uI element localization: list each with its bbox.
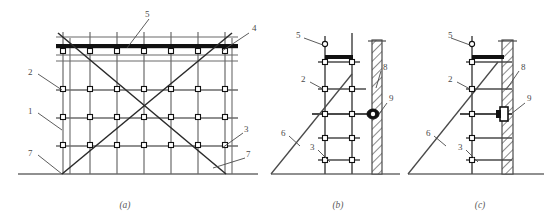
- callout-a-1: 1: [28, 106, 33, 116]
- callout-c-2: 2: [448, 74, 453, 84]
- caption-a: (a): [119, 200, 130, 211]
- top-node-b: [322, 41, 327, 46]
- callout-b-2: 2: [301, 74, 306, 84]
- callout-b-9: 9: [389, 93, 394, 103]
- masonry-wall-b: [372, 40, 382, 174]
- panel-c-wall-tie-detail: 5 2 3 6 8 9 (c): [408, 30, 544, 211]
- callout-labels-a: 2 1 7 5 4 3 7: [28, 9, 257, 159]
- platform-beam-c: [472, 55, 504, 59]
- diagonal-brace-c: [408, 62, 498, 174]
- figure-root: 2 1 7 5 4 3 7 (a): [0, 0, 554, 223]
- callout-b-8: 8: [383, 62, 388, 72]
- callout-a-4: 4: [252, 23, 257, 33]
- ledgers-b: [312, 62, 372, 160]
- scaffolding-figure-svg: 2 1 7 5 4 3 7 (a): [0, 0, 554, 223]
- platform-beam-a: [56, 44, 238, 48]
- caption-b: (b): [332, 200, 343, 211]
- callout-a-3: 3: [244, 124, 249, 134]
- callout-a-5: 5: [145, 9, 150, 19]
- callout-c-3: 3: [458, 142, 463, 152]
- callout-b-6: 6: [281, 128, 286, 138]
- panel-a-scaffold-elevation: 2 1 7 5 4 3 7 (a): [18, 9, 258, 211]
- callout-c-5: 5: [448, 30, 453, 40]
- cross-bracing-a: [58, 33, 232, 174]
- callout-c-8: 8: [521, 62, 526, 72]
- callout-c-9: 9: [527, 93, 532, 103]
- callout-c-6: 6: [426, 128, 431, 138]
- callout-a-2: 2: [28, 67, 33, 77]
- coupler-nodes-b: [323, 60, 355, 163]
- callout-b-3: 3: [310, 142, 315, 152]
- callout-a-7-left: 7: [28, 148, 33, 158]
- callout-a-7-right: 7: [246, 149, 251, 159]
- panel-b-wall-tie-detail: 5 2 3 6 8 9 (b): [271, 30, 400, 211]
- callout-labels-c: 5 2 3 6 8 9: [426, 30, 532, 152]
- diagonal-brace-b: [271, 74, 352, 174]
- top-node-c: [469, 41, 474, 46]
- platform-beam-b: [325, 55, 353, 59]
- caption-c: (c): [475, 200, 486, 211]
- wall-tie-connector-c: [500, 107, 508, 121]
- callout-b-5: 5: [296, 30, 301, 40]
